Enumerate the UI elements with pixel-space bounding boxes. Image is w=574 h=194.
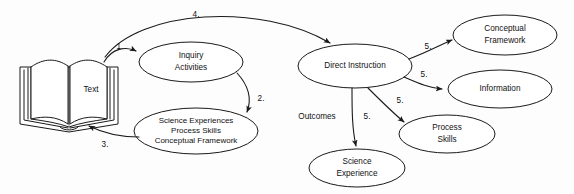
diagram-svg: Text Inquiry Activities Science Experien… xyxy=(0,0,574,194)
edge-2-inquiry-to-science-experiences xyxy=(237,73,249,112)
science-experience-ellipse xyxy=(309,149,405,187)
node-book-text[interactable]: Text xyxy=(20,60,118,132)
node-science-experiences[interactable]: Science Experiences Process Skills Conce… xyxy=(134,108,258,154)
conceptual-framework-ellipse xyxy=(453,15,557,55)
science-experience-line-2: Experience xyxy=(337,169,378,178)
node-information[interactable]: Information xyxy=(448,70,552,108)
conceptual-framework-line-1: Conceptual xyxy=(484,24,526,33)
inquiry-activities-line-2: Activities xyxy=(175,63,207,72)
edge-5a-label: 5. xyxy=(425,42,432,51)
edge-5b-label: 5. xyxy=(421,70,428,79)
direct-instruction-label: Direct Instruction xyxy=(324,61,386,70)
node-conceptual-framework[interactable]: Conceptual Framework xyxy=(453,15,557,55)
science-experiences-line-1: Science Experiences xyxy=(159,116,234,125)
process-skills-line-1: Process xyxy=(432,123,462,132)
edge-5d-direct-instruction-to-science-experience xyxy=(352,88,356,146)
inquiry-activities-ellipse xyxy=(139,42,243,82)
node-inquiry-activities[interactable]: Inquiry Activities xyxy=(139,42,243,82)
science-experiences-line-3: Conceptual Framework xyxy=(155,136,239,145)
node-process-skills[interactable]: Process Skills xyxy=(399,115,495,153)
edge-1-label: 1. xyxy=(117,42,124,51)
edge-5d-label: 5. xyxy=(364,112,371,121)
conceptual-framework-line-2: Framework xyxy=(485,36,527,45)
edge-4-label: 4. xyxy=(193,10,200,19)
edge-3-label: 3. xyxy=(102,140,109,149)
information-label: Information xyxy=(480,84,521,93)
process-skills-ellipse xyxy=(399,115,495,153)
science-experiences-line-2: Process Skills xyxy=(171,126,221,135)
science-experience-line-1: Science xyxy=(342,157,372,166)
edge-5c-label: 5. xyxy=(397,96,404,105)
node-direct-instruction[interactable]: Direct Instruction xyxy=(298,44,412,88)
edge-2-label: 2. xyxy=(258,94,265,103)
outcomes-label: Outcomes xyxy=(298,112,335,121)
book-label: Text xyxy=(83,85,99,94)
inquiry-activities-line-1: Inquiry xyxy=(179,51,204,60)
book-left-page xyxy=(31,60,68,124)
node-science-experience[interactable]: Science Experience xyxy=(309,149,405,187)
process-skills-line-2: Skills xyxy=(437,135,456,144)
diagram-canvas: Text Inquiry Activities Science Experien… xyxy=(0,0,574,194)
